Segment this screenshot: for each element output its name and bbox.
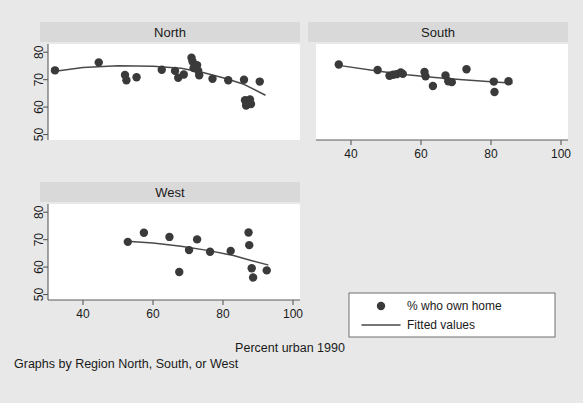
- panel-title-west: West: [155, 185, 185, 200]
- data-point: [185, 246, 193, 254]
- data-point: [490, 88, 498, 96]
- x-axis-title: Percent urban 1990: [235, 341, 345, 355]
- data-point: [263, 266, 271, 274]
- figure-caption: Graphs by Region North, South, or West: [14, 357, 239, 371]
- legend-marker-icon: [377, 302, 385, 310]
- x-tick-label: 40: [344, 147, 358, 161]
- data-point: [208, 75, 216, 83]
- data-point: [490, 77, 498, 85]
- legend: % who own homeFitted values: [349, 293, 555, 337]
- legend-label-line: Fitted values: [407, 318, 475, 332]
- data-point: [195, 71, 203, 79]
- data-point: [175, 268, 183, 276]
- y-tick-label: 70: [32, 73, 46, 87]
- y-tick-label: 60: [32, 100, 46, 114]
- data-point: [132, 73, 140, 81]
- data-point: [240, 75, 248, 83]
- y-tick-label: 80: [32, 45, 46, 59]
- data-point: [504, 77, 512, 85]
- data-point: [227, 247, 235, 255]
- data-point: [399, 70, 407, 78]
- plot-area-north: [48, 44, 300, 140]
- data-point: [206, 248, 214, 256]
- x-tick-label: 60: [414, 147, 428, 161]
- data-point: [462, 65, 470, 73]
- data-point: [249, 273, 257, 281]
- data-point: [335, 60, 343, 68]
- data-point: [51, 66, 59, 74]
- x-tick-label: 80: [484, 147, 498, 161]
- x-tick-label: 80: [216, 307, 230, 321]
- data-point: [158, 66, 166, 74]
- y-tick-label: 60: [32, 260, 46, 274]
- data-point: [193, 235, 201, 243]
- y-tick-label: 70: [32, 233, 46, 247]
- data-point: [244, 228, 252, 236]
- data-point: [256, 77, 264, 85]
- x-tick-label: 60: [146, 307, 160, 321]
- panel-title-south: South: [421, 25, 455, 40]
- data-point: [421, 72, 429, 80]
- y-tick-label: 80: [32, 205, 46, 219]
- legend-label-points: % who own home: [407, 299, 502, 313]
- data-point: [124, 238, 132, 246]
- y-tick-label: 50: [32, 288, 46, 302]
- chart-figure: North50607080South406080100West506070804…: [0, 0, 583, 403]
- data-point: [373, 66, 381, 74]
- plot-area-west: [48, 204, 300, 300]
- panel-north: North50607080: [32, 22, 300, 141]
- data-point: [448, 78, 456, 86]
- data-point: [247, 100, 255, 108]
- data-point: [165, 233, 173, 241]
- chart-svg: North50607080South406080100West506070804…: [0, 0, 583, 403]
- data-point: [122, 76, 130, 84]
- x-tick-label: 100: [551, 147, 571, 161]
- panel-south: South406080100: [308, 22, 571, 161]
- y-tick-label: 50: [32, 128, 46, 142]
- data-point: [224, 76, 232, 84]
- x-tick-label: 40: [76, 307, 90, 321]
- plot-area-south: [316, 44, 568, 140]
- data-point: [180, 70, 188, 78]
- data-point: [429, 82, 437, 90]
- panel-title-north: North: [154, 25, 186, 40]
- data-point: [248, 264, 256, 272]
- panel-west: West50607080406080100: [32, 182, 303, 321]
- x-tick-label: 100: [283, 307, 303, 321]
- data-point: [140, 229, 148, 237]
- data-point: [95, 58, 103, 66]
- data-point: [245, 241, 253, 249]
